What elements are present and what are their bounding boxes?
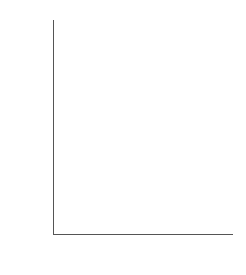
x-axis-line <box>53 234 233 235</box>
power-probit-scatter-chart <box>0 0 246 275</box>
y-axis-line <box>53 20 54 235</box>
